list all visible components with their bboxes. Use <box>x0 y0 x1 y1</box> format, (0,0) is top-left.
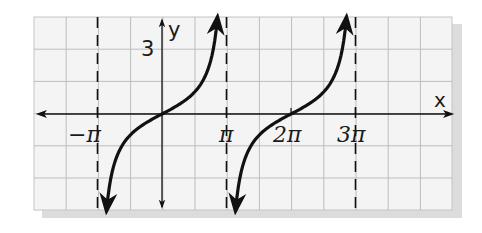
x-axis-label: x <box>434 88 446 112</box>
x-tick-label-neg-pi: −π <box>68 122 101 147</box>
y-tick-label-3: 3 <box>141 37 154 61</box>
x-tick-label-3pi: 3π <box>337 122 366 147</box>
x-tick-label-pi: π <box>218 122 234 147</box>
y-axis-label: y <box>168 18 180 42</box>
x-tick-label-2pi: 2π <box>272 122 302 147</box>
tangent-graph: y 3 x −π π 2π 3π <box>0 0 482 233</box>
